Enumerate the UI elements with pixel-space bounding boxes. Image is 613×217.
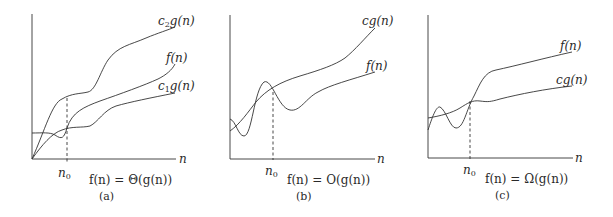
panel-a-label-f: f(n) xyxy=(166,52,188,64)
panel-a-caption: (a) xyxy=(99,191,114,202)
panel-c-label-f: f(n) xyxy=(560,40,582,52)
panel-b-curve-cg xyxy=(230,28,375,131)
panel-a-curve-f xyxy=(32,64,175,138)
panel-c-equation: f(n) = Ω(g(n)) xyxy=(485,173,568,185)
panel-b-label-f: f(n) xyxy=(366,60,388,72)
panel-c-label-cg: cg(n) xyxy=(556,74,588,86)
panel-b-equation: f(n) = O(g(n)) xyxy=(287,174,370,186)
panel-a-plot xyxy=(32,14,176,162)
panel-b-curve-f xyxy=(230,72,375,136)
panel-a-equation: f(n) = Θ(g(n)) xyxy=(89,174,172,186)
panel-b-caption: (b) xyxy=(296,191,312,202)
panel-b-plot xyxy=(230,15,375,160)
panel-a-label-c2g: c2g(n) xyxy=(158,15,195,29)
panel-a-label-c1g: c1g(n) xyxy=(158,80,195,94)
panel-a-n0-label: n0 xyxy=(58,167,71,181)
panel-c-n0-label: n0 xyxy=(463,164,476,178)
panel-c-x-axis-label: n xyxy=(575,152,583,164)
panel-a-x-axis-label: n xyxy=(179,153,187,165)
panel-a-curve-c1g xyxy=(32,93,175,159)
panel-a-curve-c2g xyxy=(32,27,175,159)
panel-b-x-axis-label: n xyxy=(377,153,385,165)
panel-c-caption: (c) xyxy=(495,190,510,201)
panel-c-plot xyxy=(428,15,573,160)
panel-c-curve-f xyxy=(428,52,572,130)
panel-b-label-cg: cg(n) xyxy=(362,15,394,27)
panel-b-n0-label: n0 xyxy=(265,165,278,179)
panel-c-curve-cg xyxy=(428,86,572,118)
